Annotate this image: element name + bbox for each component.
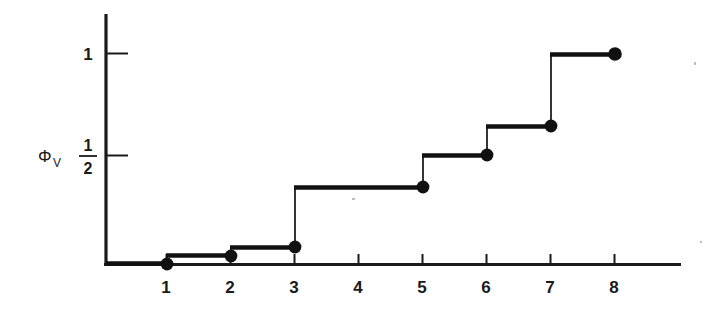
x-tick-label-3: 3 bbox=[289, 278, 298, 297]
speck-mid-right bbox=[700, 241, 702, 243]
step-segments bbox=[106, 55, 616, 264]
fraction-numerator: 1 bbox=[84, 137, 93, 154]
x-tick-label-1: 1 bbox=[161, 278, 170, 297]
y-tick-label-one-half: 1 2 bbox=[79, 137, 97, 177]
speck-upper-right bbox=[694, 62, 696, 65]
x-tick-label-7: 7 bbox=[545, 278, 554, 297]
step-dot-x6 bbox=[481, 149, 494, 162]
step-endpoint-dots bbox=[161, 47, 622, 270]
plot-canvas: 1 1 2 Φ V 1 2 3 bbox=[0, 0, 723, 312]
step-dot-x2 bbox=[225, 250, 238, 263]
step-risers bbox=[167, 55, 551, 264]
step-dot-x1 bbox=[161, 258, 174, 271]
x-tick-label-4: 4 bbox=[353, 278, 363, 297]
y-axis-title-subscript: V bbox=[53, 156, 61, 170]
fraction-denominator: 2 bbox=[84, 160, 93, 177]
y-axis-title-phi: Φ bbox=[38, 147, 52, 166]
y-tick-label-one: 1 bbox=[83, 45, 92, 64]
y-tick-labels: 1 1 2 bbox=[79, 45, 97, 177]
step-dot-x5 bbox=[417, 181, 430, 194]
x-tick-label-5: 5 bbox=[417, 278, 426, 297]
axes-group bbox=[104, 14, 681, 265]
x-tick-label-2: 2 bbox=[225, 278, 234, 297]
x-tick-label-8: 8 bbox=[609, 278, 618, 297]
step-function-figure: 1 1 2 Φ V 1 2 3 bbox=[0, 0, 723, 312]
step-dot-x7 bbox=[545, 120, 558, 133]
step-dot-x3 bbox=[289, 241, 302, 254]
x-tick-labels: 1 2 3 4 5 6 7 8 bbox=[161, 278, 618, 297]
y-axis-title: Φ V bbox=[38, 147, 61, 170]
scan-specks bbox=[352, 62, 702, 243]
y-tick-marks bbox=[106, 54, 128, 156]
speck-center bbox=[352, 198, 355, 200]
step-dot-x8 bbox=[608, 47, 622, 61]
x-tick-label-6: 6 bbox=[481, 278, 490, 297]
